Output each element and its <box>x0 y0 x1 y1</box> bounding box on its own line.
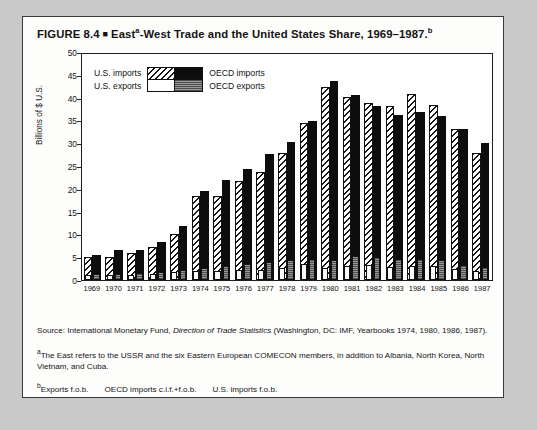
bar-us-imports <box>300 123 309 280</box>
bar-oecd-imports <box>308 121 317 280</box>
x-tick-label: 1978 <box>279 284 296 293</box>
bar-us-exports <box>387 267 393 280</box>
legend-swatch-us-exports <box>148 80 175 92</box>
bar-us-exports <box>430 266 436 280</box>
y-tick-label: 30 <box>53 139 77 149</box>
bar-us-exports <box>409 266 415 280</box>
bar-us-imports <box>364 103 373 280</box>
bar-us-exports <box>344 266 350 280</box>
x-tick-label: 1973 <box>170 284 187 293</box>
x-tick-label: 1976 <box>235 284 252 293</box>
y-axis-ticks: 05101520253035404550 <box>51 53 77 281</box>
y-tick-mark <box>77 167 81 168</box>
legend-swatch-oecd-exports <box>175 80 202 92</box>
bar-oecd-exports <box>201 268 207 280</box>
bar-group <box>449 54 471 280</box>
figure-title-main: East <box>111 28 135 40</box>
bar-us-imports <box>321 87 330 280</box>
x-tick-label: 1985 <box>430 284 447 293</box>
y-tick-mark <box>77 76 81 77</box>
bar-oecd-imports <box>200 191 209 280</box>
footnote-b-text-1: Exports f.o.b. <box>41 385 89 394</box>
bar-us-imports <box>429 105 438 280</box>
y-tick-label: 0 <box>53 276 77 286</box>
y-tick-mark <box>77 281 81 282</box>
bar-oecd-imports <box>416 112 425 280</box>
footnote-b-text-3: U.S. imports f.o.b. <box>212 385 277 394</box>
legend-label-oecd-exports: OECD exports <box>209 80 264 93</box>
legend-swatch-oecd-imports <box>175 68 202 80</box>
source-suffix: (Washington, DC: IMF, Yearbooks 1974, 19… <box>271 326 487 335</box>
source-prefix: Source: International Monetary Fund, <box>37 326 173 335</box>
bar-us-exports <box>452 269 458 280</box>
y-tick-label: 50 <box>53 48 77 58</box>
bar-group <box>406 54 428 280</box>
bar-us-imports <box>192 196 201 280</box>
bar-oecd-exports <box>223 266 229 280</box>
bar-us-imports <box>407 94 416 280</box>
bar-oecd-exports <box>395 259 401 280</box>
y-tick-mark <box>77 53 81 54</box>
y-tick-label: 10 <box>53 230 77 240</box>
y-tick-mark <box>77 258 81 259</box>
bar-us-imports <box>343 97 352 280</box>
bar-us-exports <box>366 265 372 280</box>
bar-us-exports <box>107 275 113 280</box>
x-tick-label: 1970 <box>105 284 122 293</box>
bar-oecd-imports <box>438 116 447 280</box>
x-tick-label: 1975 <box>214 284 231 293</box>
y-tick-mark <box>77 190 81 191</box>
bar-oecd-exports <box>417 259 423 280</box>
y-axis-label: Billions of $ U.S. <box>35 85 44 145</box>
figure-label: FIGURE 8.4 <box>37 28 100 40</box>
x-tick-label: 1977 <box>257 284 274 293</box>
source-note: Source: International Monetary Fund, Dir… <box>37 325 491 337</box>
bar-us-exports <box>322 268 328 280</box>
bar-us-exports <box>128 275 134 280</box>
bar-oecd-exports <box>460 265 466 280</box>
bar-oecd-exports <box>136 273 142 280</box>
x-tick-label: 1981 <box>344 284 361 293</box>
x-tick-label: 1984 <box>409 284 426 293</box>
bar-oecd-imports <box>373 106 382 280</box>
bar-oecd-imports <box>330 81 339 280</box>
bar-group <box>384 54 406 280</box>
legend-label-us-exports: U.S. exports <box>94 80 141 93</box>
bar-us-imports <box>472 153 481 280</box>
y-tick-label: 15 <box>53 208 77 218</box>
x-axis-ticks: 1969197019711972197319741975197619771978… <box>81 283 493 299</box>
figure-title-rest: -West Trade and the United States Share,… <box>140 28 428 40</box>
x-tick-label: 1986 <box>452 284 469 293</box>
bar-us-imports <box>278 153 287 280</box>
bar-oecd-exports <box>115 274 121 280</box>
bar-oecd-imports <box>481 143 490 280</box>
bar-group <box>363 54 385 280</box>
x-tick-label: 1980 <box>322 284 339 293</box>
footnote-ref-b: b <box>428 26 433 35</box>
y-tick-label: 40 <box>53 94 77 104</box>
bar-oecd-exports <box>482 267 488 280</box>
bar-oecd-imports <box>351 95 360 280</box>
bar-oecd-exports <box>309 259 315 280</box>
bar-us-exports <box>171 272 177 280</box>
y-tick-mark <box>77 213 81 214</box>
x-tick-label: 1979 <box>300 284 317 293</box>
bar-oecd-exports <box>266 262 272 280</box>
bar-us-exports <box>473 271 479 280</box>
bar-us-exports <box>279 268 285 280</box>
x-tick-label: 1983 <box>387 284 404 293</box>
y-tick-mark <box>77 235 81 236</box>
bar-us-exports <box>214 271 220 280</box>
page-title: FIGURE 8.4■Easta-West Trade and the Unit… <box>37 26 432 40</box>
bar-us-imports <box>256 172 265 280</box>
bar-oecd-exports <box>352 256 358 280</box>
bar-group <box>341 54 363 280</box>
bar-oecd-imports <box>459 129 468 280</box>
bar-us-exports <box>85 275 91 280</box>
bar-us-exports <box>193 271 199 280</box>
y-tick-label: 5 <box>53 253 77 263</box>
y-tick-label: 45 <box>53 71 77 81</box>
bar-group <box>276 54 298 280</box>
bar-oecd-exports <box>287 260 293 280</box>
legend-swatch-us-imports <box>148 68 175 80</box>
